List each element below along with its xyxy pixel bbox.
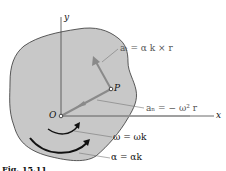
diagram-canvas bbox=[0, 0, 226, 171]
angular-acceleration-label: α = αk bbox=[111, 152, 142, 162]
origin-marker bbox=[59, 114, 63, 118]
rigid-body-acceleration-diagram: y x O P aₜ = α k × r aₙ = − ω² r ω = ωk … bbox=[0, 0, 226, 171]
normal-acceleration-label: aₙ = − ω² r bbox=[146, 103, 197, 113]
angular-velocity-label: ω = ωk bbox=[113, 132, 146, 142]
point-P-marker bbox=[109, 87, 113, 91]
y-axis-label: y bbox=[64, 12, 69, 22]
point-label: P bbox=[114, 83, 120, 93]
figure-caption: Fig. 15.11 bbox=[2, 164, 47, 171]
origin-label: O bbox=[49, 110, 56, 120]
x-axis-label: x bbox=[216, 110, 221, 120]
tangential-acceleration-label: aₜ = α k × r bbox=[120, 43, 173, 53]
